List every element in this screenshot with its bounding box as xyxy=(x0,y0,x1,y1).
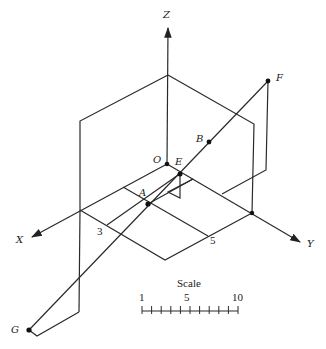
label-b: B xyxy=(195,133,203,144)
point-b xyxy=(207,140,212,145)
point-e xyxy=(178,172,183,177)
right-vertical-plane xyxy=(168,75,254,213)
scale-label-5: 5 xyxy=(184,291,190,303)
point-g xyxy=(26,327,31,332)
f-projection xyxy=(222,81,268,194)
y-label: Y xyxy=(307,238,315,249)
scale-bar: Scale 1 5 10 xyxy=(139,277,244,314)
label-g: G xyxy=(11,324,19,335)
z-axis xyxy=(167,28,168,164)
horizontal-plane xyxy=(80,210,252,260)
label-e: E xyxy=(174,156,183,167)
point-y-corner xyxy=(250,211,254,215)
3d-geometry-diagram: Z X Y O E A B F G 3 5 Scale 1 5 10 xyxy=(0,0,326,349)
x-label: X xyxy=(15,234,24,245)
tick-3: 3 xyxy=(97,225,103,237)
label-o: O xyxy=(153,154,161,165)
y-axis xyxy=(167,164,300,242)
tick-5: 5 xyxy=(210,234,216,246)
point-f xyxy=(266,79,271,84)
scale-label-1: 1 xyxy=(139,291,145,303)
g-foot-line xyxy=(29,312,79,336)
label-a: A xyxy=(138,187,146,198)
scale-title: Scale xyxy=(177,277,201,289)
line-3-to-e xyxy=(107,173,181,225)
scale-label-10: 10 xyxy=(232,291,244,303)
point-o xyxy=(165,162,170,167)
left-vertical-plane xyxy=(80,75,168,210)
label-f: F xyxy=(275,72,284,83)
axes xyxy=(32,28,300,242)
z-label: Z xyxy=(162,9,171,20)
projection-line-g xyxy=(79,210,80,312)
point-a xyxy=(145,201,150,206)
